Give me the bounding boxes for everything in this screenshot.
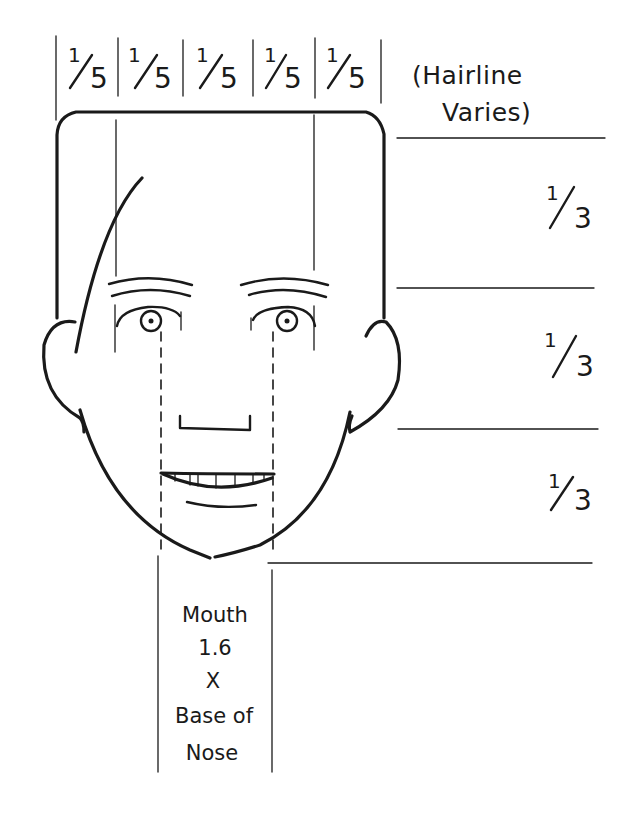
head-outline bbox=[57, 112, 384, 558]
lower-teeth-curve bbox=[163, 474, 272, 487]
fraction-label-fifth-3: 1 5 bbox=[196, 43, 238, 95]
right-eyelid bbox=[253, 307, 315, 326]
svg-text:1: 1 bbox=[264, 43, 277, 67]
fraction-label-third-2: 1 3 bbox=[544, 328, 594, 383]
fraction-label-fifth-5: 1 5 bbox=[326, 43, 366, 95]
mouth bbox=[161, 473, 274, 507]
svg-text:Nose: Nose bbox=[186, 741, 238, 765]
eyes bbox=[117, 307, 315, 331]
fraction-label-fifth-1: 1 5 bbox=[68, 43, 108, 95]
eyebrows bbox=[109, 278, 328, 297]
face-proportions-diagram: 1 5 1 5 1 5 1 5 1 5 (Hairline Varies) bbox=[0, 0, 633, 818]
right-eyebrow-upper bbox=[241, 279, 328, 286]
left-eyebrow-upper bbox=[109, 278, 192, 285]
svg-text:1: 1 bbox=[196, 43, 209, 67]
right-ear bbox=[349, 321, 399, 432]
width-fraction-labels: 1 5 1 5 1 5 1 5 1 5 bbox=[68, 43, 366, 95]
svg-text:5: 5 bbox=[90, 62, 108, 95]
mouth-width-column bbox=[158, 556, 272, 772]
upper-lip-line bbox=[161, 473, 274, 474]
fraction-label-third-1: 1 3 bbox=[546, 181, 592, 235]
mouth-note: Mouth 1.6 X Base of Nose bbox=[175, 603, 254, 765]
svg-text:1.6: 1.6 bbox=[198, 636, 231, 660]
fraction-label-fifth-2: 1 5 bbox=[128, 43, 172, 95]
svg-text:1: 1 bbox=[326, 43, 339, 67]
svg-text:X: X bbox=[206, 669, 220, 693]
svg-text:1: 1 bbox=[128, 43, 141, 67]
fraction-label-fifth-4: 1 5 bbox=[264, 43, 302, 95]
svg-text:Base of: Base of bbox=[175, 704, 254, 728]
right-eyebrow-lower bbox=[249, 290, 326, 297]
svg-text:Mouth: Mouth bbox=[182, 603, 248, 627]
pupil-guide-dashes bbox=[161, 332, 273, 555]
svg-text:5: 5 bbox=[154, 62, 172, 95]
nose-base bbox=[180, 416, 250, 430]
lower-lip-line bbox=[187, 502, 256, 507]
hair-curve bbox=[76, 178, 142, 352]
svg-text:3: 3 bbox=[574, 484, 592, 517]
svg-text:3: 3 bbox=[576, 350, 594, 383]
svg-text:5: 5 bbox=[284, 62, 302, 95]
svg-text:1: 1 bbox=[546, 181, 559, 205]
hairline-note: (Hairline Varies) bbox=[412, 61, 531, 127]
svg-text:1: 1 bbox=[544, 328, 557, 352]
svg-text:5: 5 bbox=[220, 62, 238, 95]
left-pupil bbox=[149, 319, 154, 324]
svg-text:1: 1 bbox=[548, 469, 561, 493]
inner-guide-lines bbox=[115, 115, 314, 352]
fraction-label-third-3: 1 3 bbox=[548, 469, 592, 517]
right-pupil bbox=[285, 319, 290, 324]
ears bbox=[44, 321, 400, 432]
left-eyelid bbox=[117, 307, 180, 326]
svg-text:3: 3 bbox=[574, 202, 592, 235]
svg-text:1: 1 bbox=[68, 43, 81, 67]
height-fraction-labels: 1 3 1 3 1 3 bbox=[544, 181, 594, 517]
svg-text:Varies): Varies) bbox=[442, 98, 531, 127]
left-eyebrow-lower bbox=[112, 290, 190, 296]
svg-text:(Hairline: (Hairline bbox=[412, 61, 523, 90]
svg-text:5: 5 bbox=[348, 62, 366, 95]
